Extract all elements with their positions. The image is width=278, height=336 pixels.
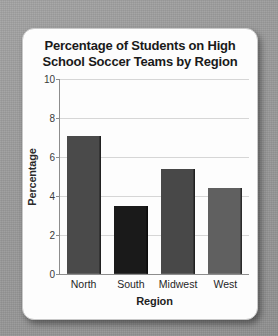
y-axis-tick-label: 8 xyxy=(49,113,55,124)
bar-group: West xyxy=(202,79,249,274)
bar-midwest[interactable] xyxy=(161,169,195,274)
bar-south[interactable] xyxy=(114,206,148,274)
plot-area: 0246810 Percentage NorthSouthMidwestWest… xyxy=(60,79,249,274)
chart-title: Percentage of Students on High School So… xyxy=(33,38,247,69)
y-axis-tick-label: 10 xyxy=(44,74,55,85)
bar-group: South xyxy=(107,79,154,274)
bar-group: Midwest xyxy=(155,79,202,274)
y-axis-tick-label: 4 xyxy=(49,191,55,202)
y-axis-tick-mark xyxy=(56,274,60,275)
x-axis-tick-label: Midwest xyxy=(159,278,198,290)
x-axis-tick-label: South xyxy=(117,278,144,290)
x-axis-line xyxy=(59,274,249,275)
y-axis-tick-label: 0 xyxy=(49,269,55,280)
chart-title-line-1: Percentage of Students on High xyxy=(33,38,247,54)
y-axis-tick-label: 2 xyxy=(49,230,55,241)
x-axis-tick-label: West xyxy=(214,278,238,290)
y-axis-label: Percentage xyxy=(26,148,38,205)
bar-west[interactable] xyxy=(208,188,242,274)
x-axis-label: Region xyxy=(60,295,249,307)
bar-series: NorthSouthMidwestWest xyxy=(60,79,249,274)
chart-card: Percentage of Students on High School So… xyxy=(22,28,258,320)
chart-title-line-2: School Soccer Teams by Region xyxy=(33,54,247,70)
x-axis-tick-label: North xyxy=(71,278,97,290)
bar-group: North xyxy=(60,79,107,274)
bar-north[interactable] xyxy=(67,136,101,274)
y-axis-tick-label: 6 xyxy=(49,152,55,163)
